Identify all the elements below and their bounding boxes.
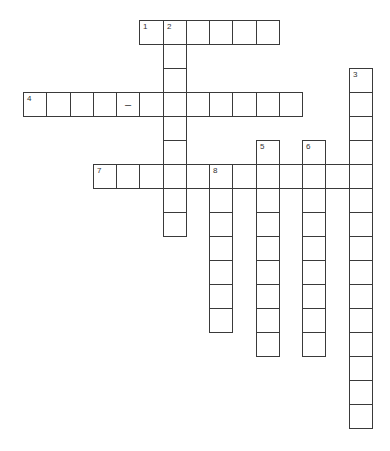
- crossword-cell[interactable]: [232, 92, 257, 117]
- crossword-cell[interactable]: [139, 92, 164, 117]
- clue-number: 1: [143, 23, 147, 31]
- crossword-cell[interactable]: [163, 212, 187, 237]
- crossword-cell[interactable]: [279, 92, 303, 117]
- crossword-cell[interactable]: 8: [209, 164, 233, 189]
- prefilled-hyphen: –: [117, 98, 139, 110]
- crossword-cell[interactable]: 4: [23, 92, 47, 117]
- crossword-cell[interactable]: [256, 260, 280, 285]
- crossword-cell[interactable]: [256, 164, 280, 189]
- crossword-cell[interactable]: [349, 116, 373, 141]
- crossword-cell[interactable]: [46, 92, 71, 117]
- crossword-grid: 1234–5678: [0, 0, 390, 451]
- crossword-cell[interactable]: [302, 332, 326, 357]
- crossword-cell[interactable]: 2: [163, 20, 187, 45]
- crossword-cell[interactable]: [349, 404, 373, 429]
- crossword-cell[interactable]: [302, 164, 326, 189]
- crossword-cell[interactable]: [186, 92, 210, 117]
- crossword-cell[interactable]: [302, 260, 326, 285]
- crossword-cell[interactable]: [302, 236, 326, 261]
- crossword-cell[interactable]: [163, 44, 187, 69]
- crossword-cell[interactable]: [232, 20, 257, 45]
- crossword-cell[interactable]: [349, 356, 373, 381]
- crossword-cell[interactable]: [349, 284, 373, 309]
- crossword-cell[interactable]: [209, 212, 233, 237]
- clue-number: 2: [167, 23, 171, 31]
- crossword-cell[interactable]: [209, 308, 233, 333]
- crossword-cell[interactable]: 5: [256, 140, 280, 165]
- crossword-cell[interactable]: [279, 164, 303, 189]
- crossword-cell[interactable]: [139, 164, 164, 189]
- crossword-cell[interactable]: [209, 20, 233, 45]
- crossword-cell[interactable]: [186, 164, 210, 189]
- crossword-cell[interactable]: [70, 92, 94, 117]
- clue-number: 3: [353, 71, 357, 79]
- crossword-cell[interactable]: –: [116, 92, 140, 117]
- crossword-cell[interactable]: [163, 68, 187, 93]
- crossword-cell[interactable]: [349, 92, 373, 117]
- crossword-cell[interactable]: [209, 188, 233, 213]
- crossword-cell[interactable]: [349, 140, 373, 165]
- crossword-cell[interactable]: [209, 260, 233, 285]
- crossword-cell[interactable]: [349, 260, 373, 285]
- crossword-cell[interactable]: [209, 236, 233, 261]
- crossword-cell[interactable]: [256, 92, 280, 117]
- crossword-cell[interactable]: [256, 20, 280, 45]
- crossword-cell[interactable]: [302, 284, 326, 309]
- crossword-cell[interactable]: [349, 164, 373, 189]
- crossword-cell[interactable]: [349, 188, 373, 213]
- crossword-cell[interactable]: [302, 188, 326, 213]
- crossword-cell[interactable]: [209, 284, 233, 309]
- crossword-cell[interactable]: [163, 188, 187, 213]
- crossword-cell[interactable]: [349, 332, 373, 357]
- crossword-cell[interactable]: [232, 164, 257, 189]
- crossword-cell[interactable]: [349, 380, 373, 405]
- clue-number: 8: [213, 167, 217, 175]
- crossword-cell[interactable]: [256, 308, 280, 333]
- crossword-cell[interactable]: [163, 92, 187, 117]
- clue-number: 6: [306, 143, 310, 151]
- crossword-cell[interactable]: [256, 188, 280, 213]
- crossword-cell[interactable]: [256, 212, 280, 237]
- crossword-cell[interactable]: [325, 164, 350, 189]
- crossword-cell[interactable]: [349, 212, 373, 237]
- crossword-cell[interactable]: [209, 92, 233, 117]
- crossword-cell[interactable]: [256, 236, 280, 261]
- crossword-cell[interactable]: [349, 236, 373, 261]
- crossword-cell[interactable]: 7: [93, 164, 117, 189]
- clue-number: 5: [260, 143, 264, 151]
- crossword-cell[interactable]: 6: [302, 140, 326, 165]
- crossword-cell[interactable]: [163, 164, 187, 189]
- crossword-cell[interactable]: [256, 284, 280, 309]
- crossword-cell[interactable]: 1: [139, 20, 164, 45]
- crossword-cell[interactable]: [93, 92, 117, 117]
- crossword-cell[interactable]: [256, 332, 280, 357]
- crossword-cell[interactable]: [163, 140, 187, 165]
- crossword-cell[interactable]: [302, 308, 326, 333]
- crossword-cell[interactable]: [349, 308, 373, 333]
- crossword-cell[interactable]: [302, 212, 326, 237]
- crossword-cell[interactable]: [116, 164, 140, 189]
- clue-number: 4: [27, 95, 31, 103]
- crossword-cell[interactable]: [163, 116, 187, 141]
- crossword-cell[interactable]: [186, 20, 210, 45]
- crossword-cell[interactable]: 3: [349, 68, 373, 93]
- clue-number: 7: [97, 167, 101, 175]
